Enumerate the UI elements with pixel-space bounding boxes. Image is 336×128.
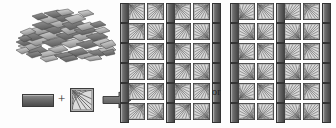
fan-tile-glyph xyxy=(303,23,320,40)
fan-tile-cell xyxy=(192,3,211,22)
fan-tile-cell xyxy=(256,83,275,102)
fan-tile-glyph xyxy=(174,23,191,40)
fan-tile-svg xyxy=(257,3,274,20)
fan-tile-svg xyxy=(128,103,145,120)
fan-tile-cell xyxy=(146,103,165,122)
bar-glyph xyxy=(322,83,331,103)
arrangement-a xyxy=(119,3,219,123)
fan-tile-cell xyxy=(256,43,275,62)
fan-tile-cell xyxy=(302,83,321,102)
bar-cell xyxy=(321,43,329,62)
fan-tile-glyph xyxy=(284,43,301,60)
fan-tile-cell xyxy=(173,103,192,122)
fan-tile-svg xyxy=(284,3,301,20)
bar-cell xyxy=(165,63,173,82)
tiling-row xyxy=(119,43,219,63)
fan-tile-svg xyxy=(303,3,320,20)
tiling-row xyxy=(119,83,219,103)
bar-cell xyxy=(229,63,237,82)
bar-glyph xyxy=(322,43,331,63)
fan-tile-svg xyxy=(284,103,301,120)
fan-tile-svg xyxy=(238,23,255,40)
legend-tile-svg xyxy=(70,88,94,112)
bar-cell xyxy=(229,43,237,62)
bar-glyph xyxy=(212,63,221,83)
fan-tile-glyph xyxy=(193,43,210,60)
fan-tile-svg xyxy=(193,103,210,120)
fan-tile-cell xyxy=(302,23,321,42)
tiling-row xyxy=(229,103,329,123)
bar-cell xyxy=(211,3,219,22)
fan-tile-svg xyxy=(147,63,164,80)
fan-tile-cell xyxy=(173,43,192,62)
fan-tile-glyph xyxy=(193,83,210,100)
fan-tile-svg xyxy=(128,83,145,100)
bar-glyph xyxy=(212,3,221,23)
fan-tile-svg xyxy=(147,83,164,100)
fan-tile-glyph xyxy=(257,3,274,20)
fan-tile-svg xyxy=(174,103,191,120)
legend-plus-symbol: + xyxy=(58,91,65,107)
fan-tile-svg xyxy=(303,63,320,80)
arrangement-b xyxy=(229,3,329,123)
bar-cell xyxy=(321,103,329,122)
fan-tile-cell xyxy=(283,63,302,82)
fan-tile-glyph xyxy=(238,83,255,100)
fan-tile-cell xyxy=(127,103,146,122)
fan-tile-glyph xyxy=(174,83,191,100)
bar-cell xyxy=(229,83,237,102)
fan-tile-svg xyxy=(128,23,145,40)
fan-tile-svg xyxy=(193,43,210,60)
bar-cell xyxy=(165,23,173,42)
fan-tile-glyph xyxy=(284,103,301,120)
fan-tile-cell xyxy=(173,3,192,22)
fan-tile-svg xyxy=(303,23,320,40)
fan-tile-cell xyxy=(237,83,256,102)
bar-cell xyxy=(211,103,219,122)
bar-cell xyxy=(165,103,173,122)
bar-glyph xyxy=(322,23,331,43)
fan-tile-cell xyxy=(127,83,146,102)
fan-tile-svg xyxy=(303,43,320,60)
fan-tile-svg xyxy=(257,23,274,40)
fan-tile-svg xyxy=(284,43,301,60)
fan-tile-svg xyxy=(238,3,255,20)
fan-tile-glyph xyxy=(238,23,255,40)
fan-tile-cell xyxy=(192,83,211,102)
fan-tile-cell xyxy=(146,3,165,22)
bar-cell xyxy=(321,83,329,102)
bar-cell xyxy=(275,23,283,42)
fan-tile-cell xyxy=(302,103,321,122)
fan-tile-cell xyxy=(192,63,211,82)
fan-tile-glyph xyxy=(128,63,145,80)
fan-tile-svg xyxy=(174,83,191,100)
bar-cell xyxy=(119,83,127,102)
fan-tile-cell xyxy=(237,103,256,122)
flake-pile-svg xyxy=(14,8,116,64)
fan-tile-cell xyxy=(302,43,321,62)
fan-tile-cell xyxy=(283,3,302,22)
bar-cell xyxy=(275,63,283,82)
bar-cell xyxy=(119,43,127,62)
bar-cell xyxy=(119,63,127,82)
bar-cell xyxy=(321,23,329,42)
fan-tile-glyph xyxy=(303,43,320,60)
fan-tile-svg xyxy=(128,3,145,20)
fan-tile-cell xyxy=(127,63,146,82)
figure-canvas: + xyxy=(0,0,336,128)
tiling-row xyxy=(119,3,219,23)
fan-tile-cell xyxy=(146,43,165,62)
flake-pile xyxy=(14,8,116,64)
fan-tile-cell xyxy=(256,23,275,42)
fan-tile-cell xyxy=(302,63,321,82)
bar-cell xyxy=(275,43,283,62)
bar-glyph xyxy=(322,3,331,23)
fan-tile-svg xyxy=(193,83,210,100)
fan-tile-svg xyxy=(193,23,210,40)
fan-tile-glyph xyxy=(284,63,301,80)
fan-tile-svg xyxy=(303,83,320,100)
fan-tile-cell xyxy=(173,23,192,42)
fan-tile-svg xyxy=(147,3,164,20)
fan-tile-svg xyxy=(147,43,164,60)
fan-tile-cell xyxy=(146,63,165,82)
